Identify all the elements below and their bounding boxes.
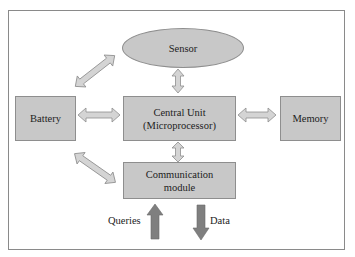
microprocessor-label: (Microprocessor) (143, 119, 216, 132)
queries-label: Queries (108, 215, 141, 226)
battery-label: Battery (30, 112, 61, 125)
central-unit-node: Central Unit (Microprocessor) (123, 96, 236, 141)
arrow-central-memory (238, 108, 276, 122)
memory-node: Memory (280, 96, 341, 141)
arrow-battery-sensor (71, 50, 119, 92)
sensor-node: Sensor (122, 28, 244, 68)
arrow-battery-central (78, 108, 120, 122)
memory-label: Memory (292, 112, 328, 125)
central-unit-label: Central Unit (153, 106, 205, 119)
arrow-central-comm (172, 142, 184, 162)
module-label: module (164, 181, 196, 194)
communication-module-node: Communication module (123, 162, 236, 199)
battery-node: Battery (15, 96, 76, 141)
queries-up-arrow (147, 204, 163, 239)
arrow-battery-comm (71, 148, 120, 188)
data-label: Data (210, 215, 230, 226)
data-down-arrow (193, 205, 209, 240)
sensor-label: Sensor (169, 43, 198, 54)
communication-label: Communication (146, 168, 214, 181)
arrow-sensor-central (172, 69, 184, 93)
